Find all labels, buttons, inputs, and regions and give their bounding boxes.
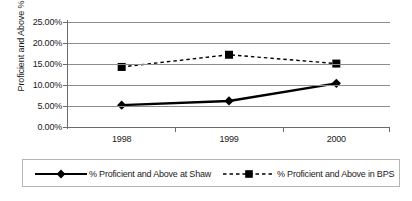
legend-item-bps: % Proficient and Above in BPS	[223, 160, 394, 188]
x-axis-tick	[389, 127, 390, 132]
legend-label-bps: % Proficient and Above in BPS	[277, 169, 394, 179]
gridline	[68, 64, 390, 65]
y-axis-tick-label: 5.00%	[16, 102, 62, 111]
y-axis-tick	[63, 127, 68, 128]
x-axis-tick-label: 1999	[199, 134, 259, 144]
y-axis-tick-label: 0.00%	[16, 123, 62, 132]
gridline	[68, 43, 390, 44]
x-axis-tick-label: 1998	[92, 134, 152, 144]
y-axis-tick-label: 20.00%	[16, 39, 62, 48]
chart-legend: % Proficient and Above at Shaw % Profici…	[22, 159, 400, 187]
data-point-square	[225, 51, 233, 59]
y-axis-tick	[63, 43, 68, 44]
x-axis-tick-label: 2000	[306, 134, 366, 144]
legend-marker-square-icon	[223, 168, 275, 180]
line-chart: Proficient and Above % 25.00%20.00%15.00…	[0, 0, 412, 201]
y-axis-tick-label: 15.00%	[16, 60, 62, 69]
y-axis-tick-label: 10.00%	[16, 81, 62, 90]
legend-marker-diamond-icon	[35, 168, 87, 180]
data-point-diamond	[332, 79, 341, 88]
gridline	[68, 85, 390, 86]
y-axis-tick-labels: 25.00%20.00%15.00%10.00%5.00%0.00%	[16, 16, 62, 132]
gridline	[68, 22, 390, 23]
plot-area	[68, 22, 390, 127]
legend-item-shaw: % Proficient and Above at Shaw	[35, 160, 211, 188]
x-axis-line	[68, 127, 390, 128]
y-axis-tick	[63, 64, 68, 65]
chart-series-svg	[68, 22, 390, 127]
gridline	[68, 106, 390, 107]
legend-label-shaw: % Proficient and Above at Shaw	[89, 169, 211, 179]
data-point-diamond	[224, 96, 233, 105]
y-axis-tick	[63, 22, 68, 23]
y-axis-tick-label: 25.00%	[16, 18, 62, 27]
y-axis-tick	[63, 85, 68, 86]
y-axis-tick	[63, 106, 68, 107]
x-axis-tick	[283, 127, 284, 132]
x-axis-tick-labels: 199819992000	[68, 134, 390, 148]
x-axis-tick	[175, 127, 176, 132]
